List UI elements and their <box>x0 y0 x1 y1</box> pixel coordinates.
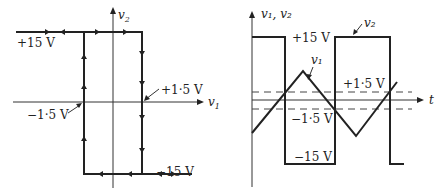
lower-level-label: −15 V <box>156 165 194 179</box>
v2-axis-label: v2 <box>118 8 130 24</box>
upper-level-label: +15 V <box>292 31 330 45</box>
v2-curve-label: v₂ <box>364 16 376 30</box>
arrow-right-icon <box>95 29 100 35</box>
arrow-down-icon <box>139 81 145 86</box>
arrow-left-icon <box>127 171 132 177</box>
arrow-left-icon <box>60 29 65 35</box>
v1-curve-label: v₁ <box>311 53 323 67</box>
left-hysteresis-diagram: v1 v2 +15 V −15 V +1·5 V −1·5 V <box>13 7 220 188</box>
arrow-right-icon <box>45 29 50 35</box>
t-axis-label: t <box>429 93 434 107</box>
lower-threshold-label: −1·5 V <box>291 112 333 126</box>
v-axis-label: v₁, v₂ <box>261 7 292 21</box>
v1-axis-label: v1 <box>208 95 220 111</box>
v2-axis-arrow-icon <box>110 7 116 14</box>
arrow-up-icon <box>81 84 87 89</box>
upper-level-label: +15 V <box>17 36 55 50</box>
right-waveform-diagram: v₁, v₂ t +15 V −15 V +1·5 V −1·5 V v₂ v₁ <box>249 7 434 187</box>
arrow-up-icon <box>81 54 87 59</box>
hysteresis-loop <box>16 32 142 174</box>
leader-arrow-icon <box>144 95 150 101</box>
arrow-right-icon <box>123 29 128 35</box>
v-axis-arrow-icon <box>249 11 255 18</box>
arrow-up-icon <box>81 136 87 141</box>
arrow-down-icon <box>139 51 145 56</box>
arrow-down-icon <box>139 115 145 120</box>
lower-threshold-label: −1·5 V <box>27 108 69 122</box>
arrow-left-icon <box>98 171 103 177</box>
upper-threshold-label: +1·5 V <box>343 77 385 91</box>
arrow-down-icon <box>139 148 145 153</box>
v1-axis-arrow-icon <box>197 99 204 105</box>
t-axis-arrow-icon <box>417 97 424 103</box>
lower-level-label: −15 V <box>294 150 332 164</box>
diagram-canvas: v1 v2 +15 V −15 V +1·5 V −1·5 V <box>0 0 445 196</box>
upper-threshold-label: +1·5 V <box>161 83 203 97</box>
